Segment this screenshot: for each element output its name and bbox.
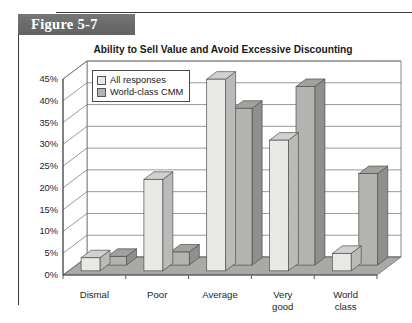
x-axis-tick-label: Dismal bbox=[63, 289, 126, 301]
y-axis-tick-label: 0% bbox=[24, 270, 58, 280]
legend-swatch-icon bbox=[97, 76, 106, 85]
y-axis-tick-label: 25% bbox=[24, 161, 58, 171]
y-axis-tick-label: 20% bbox=[24, 183, 58, 193]
y-axis-tick-label: 40% bbox=[24, 96, 58, 106]
legend-label: World-class CMM bbox=[110, 87, 183, 97]
x-axis-tick-label: World class bbox=[314, 289, 377, 312]
legend-label: All responses bbox=[110, 75, 166, 85]
x-axis-tick-label: Very good bbox=[251, 289, 314, 312]
y-axis-tick-label: 5% bbox=[24, 248, 58, 258]
x-axis-tick-label: Average bbox=[189, 289, 252, 301]
top-rule bbox=[56, 12, 412, 13]
x-axis-tick-label: Poor bbox=[126, 289, 189, 301]
figure-left-rule bbox=[18, 35, 19, 305]
legend-swatch-icon bbox=[97, 88, 106, 97]
y-axis-tick-labels: 0%5%10%15%20%25%30%35%40%45% bbox=[24, 61, 58, 287]
x-axis-tick-labels: DismalPoorAverageVery goodWorld class bbox=[63, 289, 401, 321]
figure-container: Figure 5-7 Ability to Sell Value and Avo… bbox=[0, 0, 412, 323]
y-axis-tick-label: 15% bbox=[24, 205, 58, 215]
y-axis-tick-label: 10% bbox=[24, 226, 58, 236]
y-axis-tick-label: 30% bbox=[24, 139, 58, 149]
y-axis-tick-label: 45% bbox=[24, 74, 58, 84]
chart-legend: All responsesWorld-class CMM bbox=[92, 70, 190, 102]
legend-item: All responses bbox=[97, 74, 183, 86]
chart-title: Ability to Sell Value and Avoid Excessiv… bbox=[48, 44, 398, 55]
legend-item: World-class CMM bbox=[97, 86, 183, 98]
figure-number-label: Figure 5-7 bbox=[31, 16, 98, 33]
y-axis-tick-label: 35% bbox=[24, 118, 58, 128]
